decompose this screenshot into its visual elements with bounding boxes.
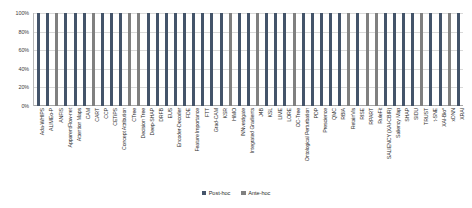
bar-segment-post-hoc	[46, 13, 49, 106]
x-label-slot: LIME	[271, 108, 280, 186]
y-axis-tick-label: 20%	[19, 84, 30, 90]
x-label-slot: CAM	[80, 108, 89, 186]
legend-entry-post-hoc[interactable]: Post-hoc	[202, 190, 231, 196]
stacked-bar	[274, 13, 277, 106]
bar-segment-ante-hoc	[92, 13, 95, 106]
stacked-bar	[347, 13, 350, 106]
x-label-slot: KSR	[217, 108, 226, 186]
bar-segment-post-hoc	[402, 13, 405, 106]
legend-label: Ante-hoc	[248, 190, 270, 196]
bar-slot	[71, 13, 80, 106]
legend-entry-ante-hoc[interactable]: Ante-hoc	[241, 190, 270, 196]
y-axis-tick-label: 80%	[19, 29, 30, 35]
bar-segment-post-hoc	[302, 13, 305, 106]
bar-segment-post-hoc	[64, 13, 67, 106]
x-label-slot: Ontological Perturbation	[299, 108, 308, 186]
bar-slot	[162, 13, 171, 106]
stacked-bar	[247, 13, 250, 106]
bar-segment-post-hoc	[329, 13, 332, 106]
bar-slot	[317, 13, 326, 106]
x-label-slot: SHAP	[399, 108, 408, 186]
stacked-bar	[46, 13, 49, 106]
bar-segment-post-hoc	[274, 13, 277, 106]
bar-segment-ante-hoc	[366, 13, 369, 106]
bar-slot	[61, 13, 70, 106]
x-label-slot: RetainVis	[344, 108, 353, 186]
bar-slot	[89, 13, 98, 106]
stacked-bar	[55, 13, 58, 106]
x-label-slot: Saliency Map	[390, 108, 399, 186]
stacked-bar	[384, 13, 387, 106]
stacked-bar	[147, 13, 150, 106]
stacked-bar	[356, 13, 359, 106]
stacked-bar	[393, 13, 396, 106]
bar-segment-post-hoc	[283, 13, 286, 106]
bar-slot	[280, 13, 289, 106]
bar-slot	[125, 13, 134, 106]
x-label-slot: RBIA	[335, 108, 344, 186]
bar-slot	[271, 13, 280, 106]
x-label-slot: xDNN	[445, 108, 454, 186]
x-label-slot: Ada-WHIPS	[34, 108, 43, 186]
y-axis-tick-label: 0%	[21, 103, 29, 109]
bar-segment-post-hoc	[210, 13, 213, 106]
bar-slot	[262, 13, 271, 106]
stacked-bar	[220, 13, 223, 106]
bar-slot	[34, 13, 43, 106]
stacked-bar	[265, 13, 268, 106]
stacked-bar	[293, 13, 296, 106]
bar-slot	[180, 13, 189, 106]
bar-segment-ante-hoc	[229, 13, 232, 106]
stacked-bar	[110, 13, 113, 106]
x-label-slot: CART	[89, 108, 98, 186]
bar-segment-post-hoc	[83, 13, 86, 106]
x-label-slot: SALIENCY (XAI-CBIR)	[381, 108, 390, 186]
bar-slot	[372, 13, 381, 106]
bar-segment-post-hoc	[384, 13, 387, 106]
x-label-slot: Prescience	[317, 108, 326, 186]
x-label-slot: Concept Attribution	[116, 108, 125, 186]
bar-slot	[153, 13, 162, 106]
bar-segment-post-hoc	[183, 13, 186, 106]
bar-segment-ante-hoc	[347, 13, 350, 106]
y-axis-tick-label: 100%	[16, 10, 29, 16]
x-label-slot: EUS	[162, 108, 171, 186]
stacked-bar	[457, 13, 460, 106]
stacked-bar	[366, 13, 369, 106]
bar-segment-ante-hoc	[375, 13, 378, 106]
x-label-slot: DRFB	[153, 108, 162, 186]
bar-slot	[144, 13, 153, 106]
bar-segment-post-hoc	[439, 13, 442, 106]
x-label-slot: ApparentFlow-net	[61, 108, 70, 186]
bar-slot	[390, 13, 399, 106]
x-label-slot: CETiPS	[107, 108, 116, 186]
bar-slot	[198, 13, 207, 106]
bar-segment-post-hoc	[457, 13, 460, 106]
bar-segment-post-hoc	[411, 13, 414, 106]
legend-swatch-icon	[241, 191, 246, 196]
stacked-bar	[192, 13, 195, 106]
legend-swatch-icon	[202, 191, 207, 196]
bar-slot	[308, 13, 317, 106]
stacked-bar	[311, 13, 314, 106]
x-label-slot: LORE	[280, 108, 289, 186]
bar-slot	[134, 13, 143, 106]
stacked-bar	[256, 13, 259, 106]
stacked-bar	[137, 13, 140, 106]
bar-segment-post-hoc	[265, 13, 268, 106]
x-label-slot: RuleFit	[372, 108, 381, 186]
y-axis-labels: 100%80%60%40%20%0%	[0, 13, 31, 106]
y-axis-tick-label: 60%	[19, 47, 30, 53]
bar-segment-ante-hoc	[420, 13, 423, 106]
bar-slot	[171, 13, 180, 106]
stacked-bar	[402, 13, 405, 106]
bar-slot	[235, 13, 244, 106]
stacked-bar	[119, 13, 122, 106]
x-label-slot: HiMO	[226, 108, 235, 186]
stacked-bar	[429, 13, 432, 106]
stacked-bar	[229, 13, 232, 106]
bar-slot	[253, 13, 262, 106]
x-label-slot: OC-Tree	[290, 108, 299, 186]
stacked-bar	[320, 13, 323, 106]
stacked-bar	[92, 13, 95, 106]
